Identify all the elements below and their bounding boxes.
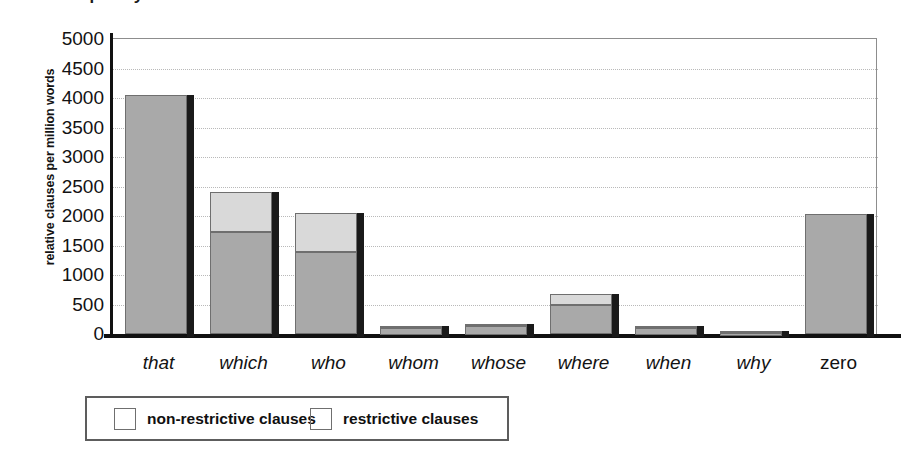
x-tick-label-when: when [646, 352, 691, 374]
x-tick-label-whose: whose [471, 352, 526, 374]
bar-group [465, 39, 534, 334]
bar-group [210, 39, 279, 334]
y-tick-label: 5000 [4, 28, 104, 50]
bar-whose [465, 324, 527, 334]
bar-segment-restrictive [380, 328, 442, 335]
y-tick-label: 1500 [4, 235, 104, 257]
bar-segment-non-restrictive [295, 213, 357, 252]
bars-group [113, 39, 878, 334]
y-tick-label: 3500 [4, 117, 104, 139]
y-tick-label: 0 [4, 323, 104, 345]
bar-segment-restrictive [210, 232, 272, 334]
x-tick-label-which: which [219, 352, 268, 374]
bar-shadow [442, 326, 449, 337]
bar-shadow [867, 214, 874, 337]
bar-segment-restrictive [805, 214, 867, 334]
bar-where [550, 294, 612, 334]
bar-segment-restrictive [720, 333, 782, 336]
bar-segment-non-restrictive [210, 192, 272, 232]
legend-item-restrictive: restrictive clauses [310, 408, 478, 430]
y-tick-label: 500 [4, 294, 104, 316]
legend-swatch-restrictive-icon [310, 408, 332, 430]
legend-item-non-restrictive: non-restrictive clauses [114, 408, 316, 430]
legend-label-restrictive: restrictive clauses [343, 410, 478, 428]
y-tick-label: 3000 [4, 146, 104, 168]
clipped-title-strip: frequency [0, 0, 914, 10]
bar-segment-restrictive [550, 305, 612, 334]
relative-clauses-bar-chart: frequency relative clauses per million w… [0, 0, 914, 454]
x-tick-label-where: where [558, 352, 610, 374]
bar-shadow [527, 324, 534, 337]
bar-segment-restrictive [295, 252, 357, 334]
bar-shadow [697, 326, 704, 337]
bar-shadow [187, 95, 194, 337]
bar-shadow [357, 213, 364, 337]
bar-segment-restrictive [125, 95, 187, 334]
bar-group [805, 39, 874, 334]
x-tick-label-why: why [737, 352, 771, 374]
bar-which [210, 192, 272, 334]
bar-shadow [272, 192, 279, 337]
x-tick-label-zero: zero [820, 352, 857, 374]
legend-label-non-restrictive: non-restrictive clauses [147, 410, 316, 428]
y-axis-tick-labels: 5000450040003500300025002000150010005000 [0, 0, 104, 454]
bar-shadow [782, 331, 789, 337]
chart-legend: non-restrictive clauses restrictive clau… [85, 396, 509, 441]
x-tick-label-that: that [143, 352, 175, 374]
x-tick-label-whom: whom [388, 352, 439, 374]
legend-swatch-non-restrictive-icon [114, 408, 136, 430]
bar-that [125, 95, 187, 334]
bar-shadow [612, 294, 619, 337]
y-tick-label: 4000 [4, 87, 104, 109]
bar-zero [805, 214, 867, 334]
y-tick-label: 4500 [4, 58, 104, 80]
y-tick-label: 2500 [4, 176, 104, 198]
y-tick-label: 2000 [4, 205, 104, 227]
bar-segment-restrictive [465, 326, 527, 334]
bar-segment-restrictive [635, 328, 697, 335]
bar-group [635, 39, 704, 334]
bar-group [720, 39, 789, 334]
bar-segment-non-restrictive [550, 294, 612, 305]
y-tick-label: 1000 [4, 264, 104, 286]
bar-why [720, 331, 782, 334]
bar-when [635, 326, 697, 334]
bar-who [295, 213, 357, 334]
bar-group [125, 39, 194, 334]
bar-group [380, 39, 449, 334]
bar-group [295, 39, 364, 334]
x-tick-label-who: who [311, 352, 346, 374]
bar-group [550, 39, 619, 334]
bar-whom [380, 326, 442, 334]
